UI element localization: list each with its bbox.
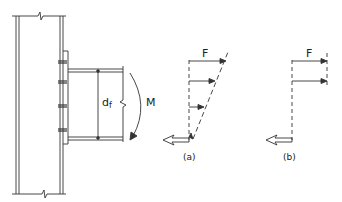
connection-diagram: df M F F (a) (b): [0, 0, 342, 202]
bolts: [58, 61, 67, 131]
flange-depth-label: df: [102, 96, 112, 110]
force-label-b: F: [306, 47, 312, 60]
beam: [68, 66, 126, 142]
flange-depth-dimension: [97, 70, 100, 140]
moment-label: M: [146, 96, 156, 109]
force-label-a: F: [202, 47, 208, 60]
end-plate: [63, 51, 68, 144]
caption-b: (b): [283, 152, 296, 162]
force-diagram-b: [266, 53, 327, 145]
column: [12, 12, 66, 198]
caption-a: (a): [183, 152, 196, 162]
force-diagram-a: [163, 52, 228, 145]
moment-arrow: [130, 73, 141, 140]
